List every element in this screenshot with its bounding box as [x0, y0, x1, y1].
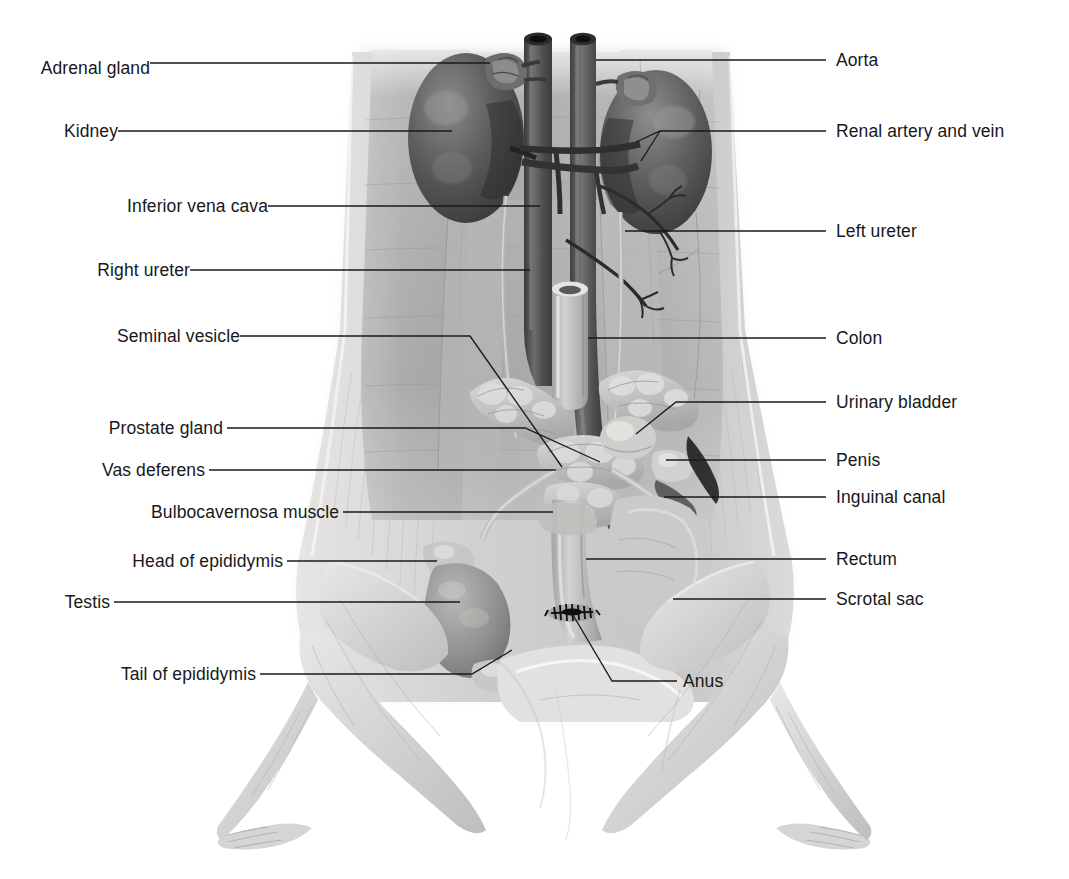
label-rectum: Rectum [836, 549, 897, 569]
label-penis: Penis [836, 450, 880, 470]
label-inferior-vena-cava: Inferior vena cava [127, 196, 268, 216]
label-aorta: Aorta [836, 50, 878, 70]
label-head-of-epididymis: Head of epididymis [132, 551, 283, 571]
label-prostate-gland: Prostate gland [109, 418, 223, 438]
colon [552, 282, 588, 411]
label-adrenal-gland: Adrenal gland [41, 58, 150, 78]
label-bulbocavernosa-muscle: Bulbocavernosa muscle [151, 502, 339, 522]
label-left-ureter: Left ureter [836, 221, 917, 241]
left-adrenal-gland [616, 71, 657, 106]
anatomy-figure: Adrenal gland Kidney Inferior vena cava … [0, 0, 1069, 879]
bulbocavernosa-muscle [538, 502, 597, 535]
label-colon: Colon [836, 328, 882, 348]
label-urinary-bladder: Urinary bladder [836, 392, 957, 412]
label-seminal-vesicle: Seminal vesicle [117, 326, 240, 346]
label-kidney: Kidney [64, 121, 118, 141]
label-anus: Anus [683, 671, 723, 691]
label-right-ureter: Right ureter [97, 260, 190, 280]
label-renal-artery-and-vein: Renal artery and vein [836, 121, 1004, 141]
label-scrotal-sac: Scrotal sac [836, 589, 924, 609]
label-tail-of-epididymis: Tail of epididymis [121, 664, 256, 684]
label-testis: Testis [65, 592, 110, 612]
label-vas-deferens: Vas deferens [102, 460, 205, 480]
label-inguinal-canal: Inguinal canal [836, 487, 945, 507]
urinary-bladder [600, 416, 656, 460]
